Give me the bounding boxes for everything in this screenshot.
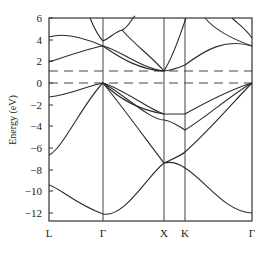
y-tick-minus2: −2	[30, 99, 42, 111]
kpoint-label-k: K	[181, 227, 189, 239]
y-tick-labels: 6 4 2 0 −2 −4 −6 −8 −10 −12	[25, 12, 43, 219]
band-1	[49, 162, 252, 214]
band-structure-chart: 6 4 2 0 −2 −4 −6 −8 −10 −12 Energy (eV)	[0, 0, 270, 253]
y-tick-2: 2	[37, 55, 43, 67]
bands	[49, 16, 252, 214]
kpoint-labels: L Γ X K Γ	[46, 227, 256, 239]
band-6	[49, 18, 186, 71]
band-3	[103, 83, 252, 163]
kpoint-label-l: L	[46, 227, 53, 239]
kpoint-label-x: X	[160, 227, 168, 239]
y-tick-minus4: −4	[30, 120, 42, 132]
y-axis-title: Energy (eV)	[7, 95, 19, 145]
y-tick-6: 6	[37, 12, 43, 24]
y-tick-0: 0	[37, 77, 43, 89]
band-4	[49, 83, 252, 114]
y-tick-minus12: −12	[25, 207, 42, 219]
kpoint-label-gamma: Γ	[100, 227, 106, 239]
y-tick-minus8: −8	[30, 164, 42, 176]
kpoint-label-gamma-end: Γ	[249, 227, 255, 239]
band-2	[49, 83, 252, 155]
band-8	[205, 18, 252, 46]
plot-frame	[49, 18, 252, 221]
kpoint-lines	[103, 18, 185, 221]
band-9	[232, 18, 252, 38]
y-tick-minus10: −10	[25, 185, 43, 197]
y-tick-4: 4	[37, 34, 43, 46]
y-tick-minus6: −6	[30, 142, 42, 154]
